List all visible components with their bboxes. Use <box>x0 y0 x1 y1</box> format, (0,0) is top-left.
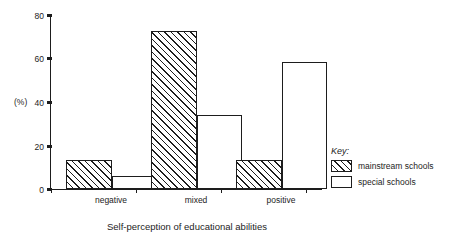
x-axis-tick-label-positive: positive <box>246 195 316 205</box>
legend-swatch-hatched <box>331 160 352 172</box>
legend-item-mainstream-schools: mainstream schools <box>331 160 434 172</box>
x-axis-tick <box>221 189 222 193</box>
bar-positive-special <box>282 62 327 189</box>
legend-swatch-empty <box>331 176 352 188</box>
x-axis-line <box>50 189 322 190</box>
y-axis-tick-label: 20 <box>22 142 44 152</box>
y-axis-tick-label: 0 <box>22 185 44 195</box>
y-axis-tick-label: 60 <box>22 54 44 64</box>
chart-figure: 80 60 40 20 0 (%) negative mixed positiv… <box>0 0 454 242</box>
legend-label: mainstream schools <box>358 161 434 171</box>
y-axis-tick <box>47 57 52 60</box>
legend-item-special-schools: special schools <box>331 176 434 188</box>
bar-positive-mainstream <box>236 160 282 189</box>
x-axis-tick <box>51 189 52 193</box>
x-axis-tick <box>136 189 137 193</box>
y-axis-tick <box>47 145 52 148</box>
y-axis-label: (%) <box>14 97 27 107</box>
y-axis-tick-label: 80 <box>22 11 44 21</box>
legend: Key: mainstream schools special schools <box>331 146 434 188</box>
x-axis-tick <box>306 189 307 193</box>
x-axis-label: Self-perception of educational abilities <box>51 221 323 232</box>
x-axis-tick-label-mixed: mixed <box>161 195 231 205</box>
bar-negative-mainstream <box>66 160 112 189</box>
x-axis-tick-label-negative: negative <box>76 195 146 205</box>
bar-mixed-mainstream <box>151 31 197 189</box>
y-axis-tick <box>47 14 52 17</box>
legend-label: special schools <box>358 177 416 187</box>
y-axis-tick <box>47 101 52 104</box>
legend-title: Key: <box>331 146 434 156</box>
